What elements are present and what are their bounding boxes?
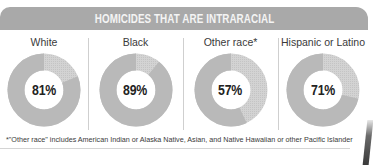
column-label: White (0, 36, 88, 48)
column-label: Other race* (183, 36, 278, 48)
donut-chart-white: 81% (7, 53, 81, 127)
donut-chart-black: 89% (99, 53, 173, 127)
column-divider (88, 38, 89, 130)
chart-title: HOMICIDES THAT ARE INTRARACIAL (94, 12, 274, 26)
column-divider (183, 38, 184, 130)
percent-label: 71% (286, 53, 360, 127)
footnote: *"Other race" includes American Indian o… (6, 135, 353, 144)
infographic-card: HOMICIDES THAT ARE INTRARACIAL White 81%… (0, 7, 371, 149)
column-divider (278, 38, 279, 130)
donut-chart-hispanic-latino: 71% (286, 53, 360, 127)
column-label: Hispanic or Latino (278, 36, 368, 48)
column-label: Black (88, 36, 183, 48)
donut-columns: White 81% Black 89% Other race* 57% Hi (0, 30, 368, 130)
column-hispanic-latino: Hispanic or Latino 71% (278, 30, 368, 130)
bottom-rule (0, 148, 350, 149)
column-white: White 81% (0, 30, 88, 130)
donut-chart-other-race: 57% (194, 53, 268, 127)
percent-label: 57% (194, 53, 268, 127)
percent-label: 89% (99, 53, 173, 127)
column-other-race: Other race* 57% (183, 30, 278, 130)
column-black: Black 89% (88, 30, 183, 130)
percent-label: 81% (7, 53, 81, 127)
header-bar: HOMICIDES THAT ARE INTRARACIAL (0, 7, 368, 30)
